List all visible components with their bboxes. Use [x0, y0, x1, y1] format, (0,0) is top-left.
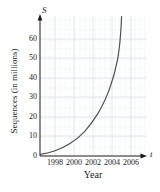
- chart-figure: S t 0 10 20 30 40 50 60 1998 2000 2002 2…: [0, 0, 160, 192]
- x-tick-label-2002: 2002: [83, 159, 103, 167]
- y-axis-variable: S: [42, 5, 47, 15]
- y-tick-label-0: 0: [22, 152, 37, 160]
- x-tick-label-2000: 2000: [64, 159, 84, 167]
- x-axis-label: Year: [40, 169, 146, 180]
- x-tick-label-2006: 2006: [121, 159, 141, 167]
- y-tick-label-60: 60: [22, 35, 37, 43]
- grid-minor-vertical: [45, 16, 145, 156]
- y-tick-label-50: 50: [22, 54, 37, 62]
- y-axis-label: Sequences (in millions): [9, 21, 19, 161]
- y-tick-label-10: 10: [22, 132, 37, 140]
- x-axis-variable: t: [150, 149, 153, 159]
- y-tick-label-40: 40: [22, 74, 37, 82]
- x-tick-label-1998: 1998: [45, 159, 65, 167]
- x-tick-label-2004: 2004: [102, 159, 122, 167]
- y-tick-label-30: 30: [22, 93, 37, 101]
- y-tick-label-20: 20: [22, 113, 37, 121]
